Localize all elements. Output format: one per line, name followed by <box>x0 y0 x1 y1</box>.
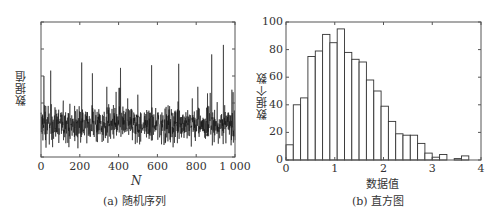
y-tick-label: 40 <box>269 98 283 111</box>
histogram-bar <box>323 34 330 160</box>
histogram-bar <box>403 135 410 160</box>
histogram-bar <box>425 153 432 160</box>
histogram-bar <box>330 43 337 160</box>
histogram-bar <box>301 98 308 160</box>
histogram-bar <box>374 91 381 160</box>
histogram-bar <box>366 80 373 160</box>
histogram-bar <box>286 145 293 160</box>
x-tick-label: 2 <box>380 162 387 175</box>
histogram-bar <box>315 51 322 160</box>
histogram-bar <box>410 135 417 160</box>
y-tick-label: 20 <box>269 125 283 138</box>
histogram-bar <box>418 143 425 160</box>
x-axis-label: 数据值 <box>366 175 399 191</box>
x-tick-label: 4 <box>478 162 485 175</box>
x-tick-label: 0 <box>283 162 290 175</box>
histogram-bar <box>381 106 388 160</box>
histogram-bar <box>388 121 395 160</box>
x-tick-label: 1 <box>331 162 338 175</box>
y-tick-label: 80 <box>269 43 283 56</box>
panel-histogram: 020406080100 01234 数据个数 数据值 (b) 直方图 <box>0 0 501 222</box>
histogram-bar <box>359 62 366 160</box>
y-tick-label: 100 <box>262 15 283 28</box>
histogram-bar <box>462 156 469 160</box>
histogram-bar <box>396 134 403 160</box>
histogram-plot <box>0 0 501 222</box>
histogram-bar <box>308 57 315 161</box>
x-tick-label: 3 <box>429 162 436 175</box>
y-axis-label: 数据个数 <box>255 72 271 120</box>
histogram-bar <box>352 59 359 160</box>
histogram-bar <box>337 29 344 160</box>
caption-b: (b) 直方图 <box>352 192 404 208</box>
histogram-bar <box>345 52 352 160</box>
histogram-bar <box>440 155 447 161</box>
y-tick-label: 60 <box>269 70 283 83</box>
histogram-bar <box>293 105 300 160</box>
